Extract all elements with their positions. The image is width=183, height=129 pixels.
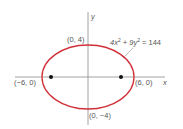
equation-leader-line — [124, 48, 133, 57]
focus-left — [49, 75, 53, 79]
label-top-vertex: (0, 4) — [67, 35, 85, 44]
label-bottom-vertex: (0, −4) — [89, 111, 111, 120]
label-left-vertex: (−6, 0) — [14, 78, 36, 87]
x-axis-label: x — [162, 78, 167, 87]
equation-label: 4x2 + 9y2 = 144 — [110, 37, 161, 47]
y-axis-label: y — [90, 12, 96, 21]
ellipse-diagram: y x (0, 4) (0, −4) (−6, 0) (6, 0) 4x2 + … — [0, 0, 183, 129]
label-right-vertex: (6, 0) — [135, 78, 153, 87]
focus-right — [119, 75, 123, 79]
